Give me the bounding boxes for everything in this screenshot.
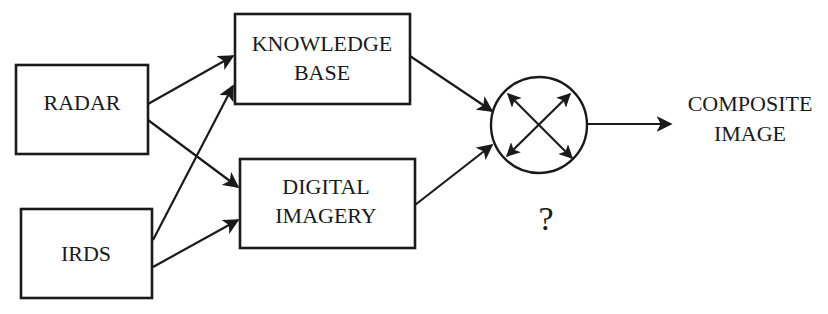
- fusion-question-mark: ?: [538, 200, 553, 237]
- node-radar: RADAR: [16, 65, 148, 154]
- node-fusion: ?: [491, 77, 587, 237]
- knowledge-base-label-line2: BASE: [294, 60, 350, 85]
- composite-image-label-line1: COMPOSITE: [688, 91, 813, 116]
- digital-imagery-label-line1: DIGITAL: [282, 174, 369, 199]
- edge-knowledge-base-to-fusion: [410, 56, 492, 111]
- edge-irds-to-knowledge-base: [153, 86, 233, 240]
- radar-label: RADAR: [43, 90, 120, 115]
- edge-radar-to-digital-imagery: [148, 120, 238, 187]
- irds-label: IRDS: [61, 241, 111, 266]
- digital-imagery-label-line2: IMAGERY: [275, 203, 377, 228]
- node-composite-image: COMPOSITE IMAGE: [688, 91, 813, 146]
- knowledge-base-label-line1: KNOWLEDGE: [252, 31, 393, 56]
- edge-irds-to-digital-imagery: [153, 220, 238, 267]
- node-knowledge-base: KNOWLEDGE BASE: [235, 14, 410, 104]
- node-irds: IRDS: [21, 209, 152, 298]
- composite-image-label-line2: IMAGE: [714, 121, 786, 146]
- node-digital-imagery: DIGITAL IMAGERY: [240, 159, 415, 248]
- fusion-diagram: RADAR IRDS KNOWLEDGE BASE DIGITAL IMAGER…: [0, 0, 828, 314]
- edge-digital-imagery-to-fusion: [415, 145, 492, 205]
- edge-radar-to-knowledge-base: [148, 56, 233, 104]
- knowledge-base-box: [235, 14, 410, 104]
